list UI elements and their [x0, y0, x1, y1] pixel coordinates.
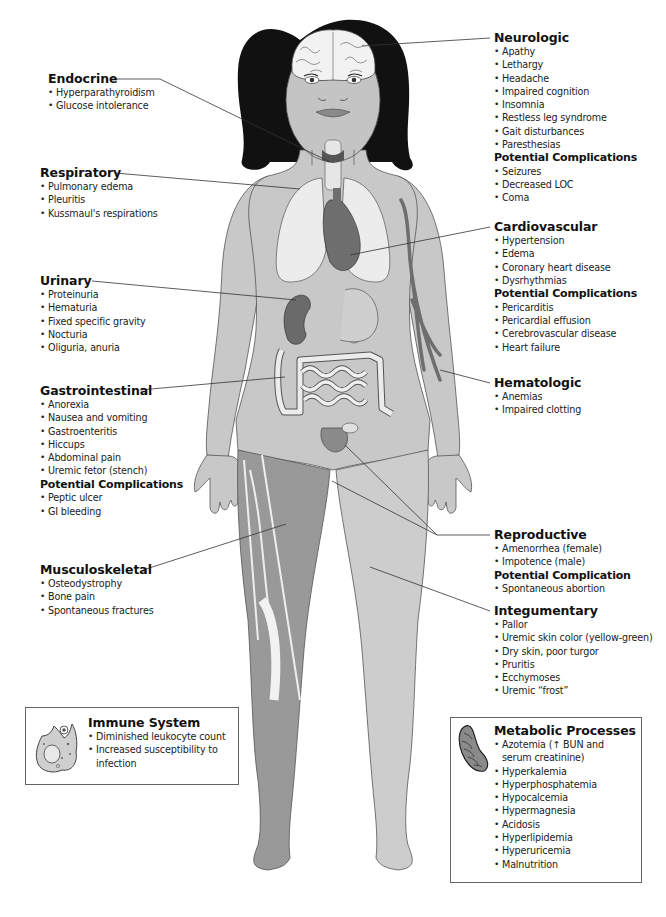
list-item: Osteodystrophy: [40, 577, 154, 590]
list-item: Seizures: [494, 165, 637, 178]
gastrointestinal-complications-heading: Potential Complications: [40, 478, 183, 492]
list-item: Cerebrovascular disease: [494, 327, 637, 340]
list-item: Anorexia: [40, 398, 183, 411]
list-item: Proteinuria: [40, 288, 146, 301]
list-item: Hyperphosphatemia: [494, 778, 609, 791]
list-item: Hyperlipidemia: [494, 831, 609, 844]
list-item: Heart failure: [494, 341, 637, 354]
list-item: Diminished leukocyte count: [88, 730, 228, 743]
list-item: Impotence (male): [494, 555, 631, 568]
leukocyte-icon: [32, 714, 82, 776]
cardiovascular-complications-list: Pericarditis Pericardial effusion Cerebr…: [494, 301, 637, 354]
neurologic-list: Apathy Lethargy Headache Impaired cognit…: [494, 45, 637, 151]
metabolic-heading: Metabolic Processes: [494, 723, 636, 738]
reproductive-complications-heading: Potential Complication: [494, 569, 631, 583]
list-item: Uremic “frost”: [494, 684, 653, 697]
list-item: Insomnia: [494, 98, 637, 111]
list-item: Pruritis: [494, 658, 653, 671]
hematologic-list: Anemias Impaired clotting: [494, 390, 581, 417]
list-item: Fixed specific gravity: [40, 315, 146, 328]
list-item: Uremic skin color (yellow-green): [494, 631, 653, 644]
musculoskeletal-list: Osteodystrophy Bone pain Spontaneous fra…: [40, 577, 154, 617]
list-item: Paresthesias: [494, 138, 637, 151]
cardiovascular-list: Hypertension Edema Coronary heart diseas…: [494, 234, 637, 287]
integumentary-heading: Integumentary: [494, 603, 653, 618]
list-item: Ecchymoses: [494, 671, 653, 684]
list-item: Hyperparathyroidism: [48, 86, 155, 99]
gastrointestinal-section: Gastrointestinal Anorexia Nausea and vom…: [40, 383, 183, 518]
list-item: Hypocalcemia: [494, 791, 609, 804]
list-item: Oliguria, anuria: [40, 341, 146, 354]
list-item: Nausea and vomiting: [40, 411, 183, 424]
cardiovascular-heading: Cardiovascular: [494, 219, 637, 234]
list-item: Impaired cognition: [494, 85, 637, 98]
list-item: Increased susceptibility to infection: [88, 743, 228, 770]
list-item: Acidosis: [494, 818, 609, 831]
list-item: Bone pain: [40, 590, 154, 603]
list-item: Dry skin, poor turgor: [494, 645, 653, 658]
ovary: [342, 423, 358, 433]
list-item: Gait disturbances: [494, 125, 637, 138]
metabolic-processes-box: Metabolic Processes Azotemia (↑ BUN and …: [450, 717, 642, 883]
hematologic-heading: Hematologic: [494, 375, 581, 390]
list-item: Lethargy: [494, 58, 637, 71]
list-item: Decreased LOC: [494, 178, 637, 191]
list-item: Peptic ulcer: [40, 491, 183, 504]
integumentary-section: Integumentary Pallor Uremic skin color (…: [494, 603, 653, 698]
list-item: Hypermagnesia: [494, 804, 609, 817]
list-item: Pallor: [494, 618, 653, 631]
reproductive-list: Amenorrhea (female) Impotence (male): [494, 542, 631, 569]
list-item: Coma: [494, 191, 637, 204]
list-item: Apathy: [494, 45, 637, 58]
gastrointestinal-heading: Gastrointestinal: [40, 383, 183, 398]
list-item: Amenorrhea (female): [494, 542, 631, 555]
metabolic-list: Azotemia (↑ BUN and serum creatinine) Hy…: [494, 738, 609, 871]
immune-system-box: Immune System Diminished leukocyte count…: [25, 707, 239, 785]
list-item: GI bleeding: [40, 505, 183, 518]
urinary-heading: Urinary: [40, 273, 146, 288]
list-item: Kussmaul's respirations: [40, 207, 158, 220]
immune-heading: Immune System: [88, 715, 228, 730]
gastrointestinal-list: Anorexia Nausea and vomiting Gastroenter…: [40, 398, 183, 478]
respiratory-section: Respiratory Pulmonary edema Pleuritis Ku…: [40, 165, 158, 220]
list-item: Gastroenteritis: [40, 425, 183, 438]
list-item: Restless leg syndrome: [494, 111, 637, 124]
immune-list: Diminished leukocyte count Increased sus…: [88, 730, 228, 770]
integumentary-list: Pallor Uremic skin color (yellow-green) …: [494, 618, 653, 698]
hematologic-section: Hematologic Anemias Impaired clotting: [494, 375, 581, 417]
list-item: Hematuria: [40, 301, 146, 314]
endocrine-heading: Endocrine: [48, 71, 155, 86]
list-item: Uremic fetor (stench): [40, 464, 183, 477]
list-item: Dysrhythmias: [494, 274, 637, 287]
right-hand: [426, 455, 472, 513]
list-item: Pleuritis: [40, 193, 158, 206]
list-item: Glucose intolerance: [48, 99, 155, 112]
list-item: Abdominal pain: [40, 451, 183, 464]
neurologic-section: Neurologic Apathy Lethargy Headache Impa…: [494, 30, 637, 205]
mitochondrion-icon: [456, 723, 490, 775]
list-item: Hypertension: [494, 234, 637, 247]
endocrine-section: Endocrine Hyperparathyroidism Glucose in…: [48, 71, 155, 113]
left-leg: [237, 450, 330, 870]
list-item: Anemias: [494, 390, 581, 403]
list-item: Nocturia: [40, 328, 146, 341]
reproductive-heading: Reproductive: [494, 527, 631, 542]
list-item: Malnutrition: [494, 858, 609, 871]
neurologic-heading: Neurologic: [494, 30, 637, 45]
left-hand: [194, 455, 240, 513]
respiratory-heading: Respiratory: [40, 165, 158, 180]
cardiovascular-section: Cardiovascular Hypertension Edema Corona…: [494, 219, 637, 354]
gastrointestinal-complications-list: Peptic ulcer GI bleeding: [40, 491, 183, 518]
list-item: Pulmonary edema: [40, 180, 158, 193]
reproductive-complications-list: Spontaneous abortion: [494, 582, 631, 595]
urinary-section: Urinary Proteinuria Hematuria Fixed spec…: [40, 273, 146, 354]
musculoskeletal-section: Musculoskeletal Osteodystrophy Bone pain…: [40, 562, 154, 617]
list-item: Pericarditis: [494, 301, 637, 314]
endocrine-list: Hyperparathyroidism Glucose intolerance: [48, 86, 155, 113]
trachea: [325, 140, 341, 190]
musculoskeletal-heading: Musculoskeletal: [40, 562, 154, 577]
list-item: Edema: [494, 247, 637, 260]
list-item: Hyperuricemia: [494, 844, 609, 857]
list-item: Impaired clotting: [494, 403, 581, 416]
list-item: Headache: [494, 72, 637, 85]
